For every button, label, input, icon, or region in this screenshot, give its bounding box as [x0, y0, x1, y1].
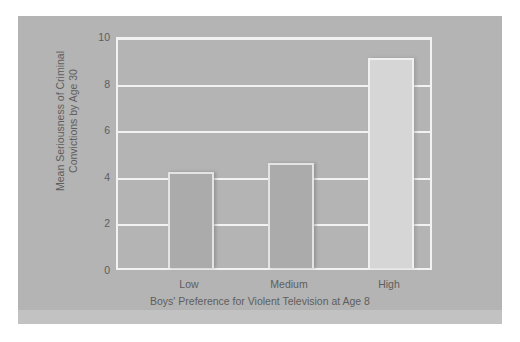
x-tick-low: Low: [149, 278, 229, 290]
y-tick-0: 0: [86, 265, 110, 275]
y-tick-6: 6: [86, 125, 110, 135]
y-tick-2: 2: [86, 218, 110, 228]
figure-footer-band: [18, 310, 502, 324]
y-tick-4: 4: [86, 172, 110, 182]
y-axis-title-line-1: Mean Seriousness of Criminal: [54, 26, 67, 216]
x-axis-tick-labels: Low Medium High: [116, 278, 432, 292]
y-tick-8: 8: [86, 79, 110, 89]
plot-area: [116, 37, 432, 270]
x-tick-high: High: [349, 278, 429, 290]
bar-low: [168, 172, 214, 268]
x-axis-title: Boys' Preference for Violent Television …: [18, 295, 502, 307]
y-axis-title: Mean Seriousness of Criminal Convictions…: [54, 26, 80, 216]
bar-medium: [268, 163, 314, 268]
bar-high: [368, 58, 414, 268]
y-tick-10: 10: [86, 32, 110, 42]
y-axis-tick-labels: 10 8 6 4 2 0: [84, 37, 110, 270]
figure-panel: 10 8 6 4 2 0 Mean Seriousness of Crimina…: [18, 16, 502, 324]
y-axis-title-line-2: Convictions by Age 30: [67, 26, 80, 216]
x-tick-medium: Medium: [249, 278, 329, 290]
